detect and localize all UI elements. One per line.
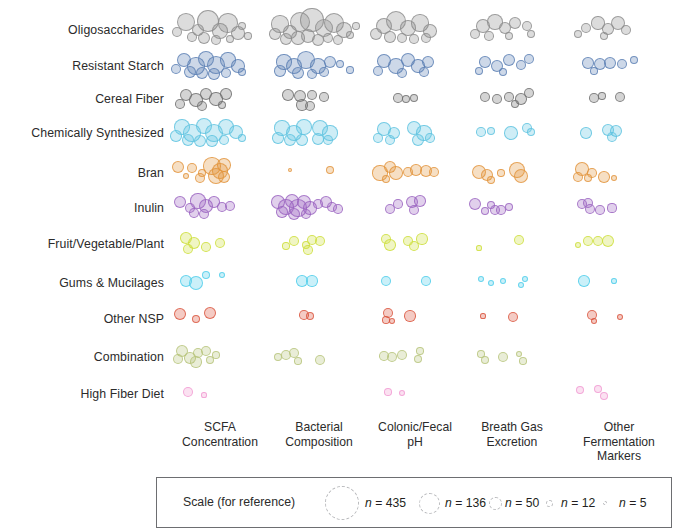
- column-header-line: Concentration: [172, 435, 268, 450]
- bubble: [315, 355, 325, 365]
- bubble: [238, 22, 246, 30]
- row-label-fruit-vegetable-plant: Fruit/Vegetable/Plant: [48, 238, 164, 251]
- cell-r7-c2: [368, 267, 462, 301]
- bubble: [183, 387, 193, 397]
- bubble: [184, 66, 197, 79]
- bubble: [307, 90, 318, 101]
- bubble: [505, 32, 514, 41]
- cell-r9-c4: [564, 341, 674, 375]
- bubble: [576, 386, 584, 394]
- row-label-bran: Bran: [138, 167, 164, 180]
- column-header-row: SCFAConcentrationBacterialCompositionCol…: [172, 414, 674, 472]
- bubble-matrix-figure: OligosaccharidesResistant StarchCereal F…: [0, 0, 674, 529]
- bubble: [429, 167, 439, 177]
- bubble: [385, 135, 396, 146]
- bubble: [172, 161, 184, 173]
- legend-label-n-136: n = 136: [445, 496, 486, 510]
- cell-r8-c0: [172, 303, 268, 337]
- size-scale-legend: Scale (for reference) n = 435n = 136n = …: [156, 477, 672, 528]
- cell-r1-c4: [564, 50, 674, 84]
- bubble: [306, 312, 315, 321]
- bubble: [183, 244, 193, 254]
- cell-r0-c0: [172, 14, 268, 48]
- bubble: [238, 68, 247, 77]
- bubble: [282, 89, 294, 101]
- bubble: [480, 92, 491, 103]
- cell-r1-c3: [465, 50, 559, 84]
- bubble: [412, 134, 424, 146]
- bubble: [488, 280, 494, 286]
- cell-r3-c2: [368, 117, 462, 151]
- bubble: [479, 56, 491, 68]
- cell-r5-c4: [564, 192, 674, 226]
- bubble: [419, 67, 429, 77]
- bubble: [519, 357, 527, 365]
- legend-circle-n-136: [419, 493, 440, 514]
- column-header-line: Excretion: [465, 435, 559, 450]
- row-label-oligosaccharides: Oligosaccharides: [68, 24, 164, 37]
- bubble: [244, 32, 251, 39]
- bubble: [505, 203, 514, 212]
- cell-r9-c2: [368, 341, 462, 375]
- bubble: [573, 172, 584, 183]
- cell-r2-c1: [272, 83, 366, 117]
- row-label-chemically-synthesized: Chemically Synthesized: [31, 127, 164, 140]
- bubble: [504, 126, 518, 140]
- bubble: [292, 67, 304, 79]
- legend-label-n-12: n = 12: [561, 496, 595, 510]
- bubble: [381, 276, 391, 286]
- cell-r10-c3: [465, 378, 559, 412]
- cell-r0-c2: [368, 14, 462, 48]
- bubble: [397, 350, 407, 360]
- column-header-line: Other: [564, 420, 674, 435]
- bubble: [481, 207, 490, 216]
- cell-r1-c0: [172, 50, 268, 84]
- legend-label-value: = 435: [372, 496, 406, 510]
- bubble: [370, 28, 383, 41]
- bubble: [600, 392, 609, 401]
- cell-r5-c2: [368, 192, 462, 226]
- bubble: [514, 169, 529, 184]
- bubble: [197, 101, 207, 111]
- bubble: [598, 92, 605, 99]
- column-header-line: Fermentation: [564, 435, 674, 450]
- bubble: [307, 69, 318, 80]
- bubble: [509, 17, 522, 30]
- bubble: [294, 357, 302, 365]
- bubble: [170, 130, 182, 142]
- cell-r7-c1: [272, 267, 366, 301]
- bubble: [204, 307, 217, 320]
- bubble: [373, 66, 383, 76]
- bubble: [402, 95, 411, 104]
- column-header-colonic-fecal-ph: Colonic/FecalpH: [368, 420, 462, 449]
- bubble: [280, 33, 293, 46]
- row-label-resistant-starch: Resistant Starch: [72, 60, 164, 73]
- plot-grid: [172, 0, 674, 410]
- bubble: [319, 92, 329, 102]
- bubble: [585, 204, 595, 214]
- bubble: [630, 56, 638, 64]
- bubble: [595, 205, 605, 215]
- bubble: [198, 32, 210, 44]
- bubble: [480, 313, 485, 318]
- bubble: [590, 67, 598, 75]
- bubble: [498, 352, 508, 362]
- legend-circle-n-50: [489, 497, 502, 510]
- bubble: [607, 203, 616, 212]
- bubble: [416, 233, 427, 244]
- column-header-line: Breath Gas: [465, 420, 559, 435]
- bubble: [425, 133, 435, 143]
- cell-r8-c3: [465, 303, 559, 337]
- cell-r3-c0: [172, 117, 268, 151]
- row-label-column: OligosaccharidesResistant StarchCereal F…: [0, 0, 170, 410]
- cell-r9-c0: [172, 341, 268, 375]
- bubble: [305, 101, 315, 111]
- bubble: [574, 30, 583, 39]
- bubble: [171, 64, 182, 75]
- bubble: [421, 33, 431, 43]
- legend-circle-n-435: [325, 486, 359, 520]
- cell-r7-c4: [564, 267, 674, 301]
- bubble: [201, 242, 211, 252]
- legend-label-n-symbol: n: [365, 496, 372, 510]
- bubble: [336, 60, 344, 68]
